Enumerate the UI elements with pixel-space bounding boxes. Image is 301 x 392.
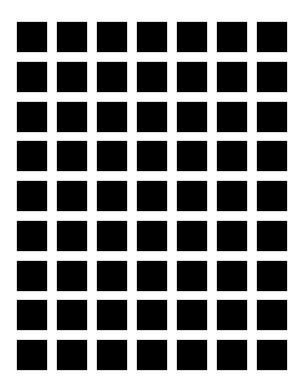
grid-square bbox=[217, 181, 247, 211]
grid-square bbox=[57, 261, 87, 291]
figure-canvas bbox=[0, 0, 301, 392]
grid-square bbox=[17, 261, 47, 291]
grid-square bbox=[137, 261, 167, 291]
grid-square bbox=[137, 340, 167, 370]
grid-square bbox=[217, 62, 247, 92]
grid-square bbox=[57, 141, 87, 171]
square-grid bbox=[17, 22, 287, 370]
grid-square bbox=[217, 261, 247, 291]
grid-square bbox=[97, 221, 127, 251]
grid-square bbox=[257, 300, 287, 330]
grid-square bbox=[17, 22, 47, 52]
grid-square bbox=[177, 261, 207, 291]
grid-square bbox=[97, 141, 127, 171]
grid-square bbox=[97, 181, 127, 211]
grid-square bbox=[137, 102, 167, 132]
grid-square bbox=[177, 102, 207, 132]
grid-square bbox=[137, 221, 167, 251]
grid-square bbox=[17, 102, 47, 132]
grid-square bbox=[217, 141, 247, 171]
grid-square bbox=[257, 62, 287, 92]
grid-square bbox=[137, 62, 167, 92]
grid-square bbox=[257, 340, 287, 370]
grid-square bbox=[257, 261, 287, 291]
grid-square bbox=[257, 181, 287, 211]
grid-square bbox=[177, 300, 207, 330]
grid-square bbox=[217, 22, 247, 52]
grid-square bbox=[57, 181, 87, 211]
grid-square bbox=[177, 221, 207, 251]
grid-square bbox=[17, 221, 47, 251]
grid-square bbox=[97, 300, 127, 330]
grid-square bbox=[217, 340, 247, 370]
grid-square bbox=[97, 62, 127, 92]
grid-square bbox=[57, 102, 87, 132]
grid-square bbox=[177, 141, 207, 171]
grid-square bbox=[97, 102, 127, 132]
grid-square bbox=[57, 22, 87, 52]
grid-square bbox=[97, 22, 127, 52]
grid-square bbox=[217, 102, 247, 132]
grid-square bbox=[257, 102, 287, 132]
grid-square bbox=[217, 300, 247, 330]
grid-square bbox=[17, 340, 47, 370]
grid-square bbox=[17, 300, 47, 330]
grid-square bbox=[137, 300, 167, 330]
grid-square bbox=[17, 62, 47, 92]
grid-square bbox=[177, 181, 207, 211]
grid-square bbox=[177, 22, 207, 52]
grid-square bbox=[257, 221, 287, 251]
grid-square bbox=[57, 221, 87, 251]
grid-square bbox=[177, 62, 207, 92]
grid-square bbox=[217, 221, 247, 251]
grid-square bbox=[57, 300, 87, 330]
grid-square bbox=[57, 340, 87, 370]
grid-square bbox=[17, 141, 47, 171]
grid-square bbox=[137, 181, 167, 211]
grid-square bbox=[257, 22, 287, 52]
grid-square bbox=[257, 141, 287, 171]
grid-square bbox=[97, 261, 127, 291]
grid-square bbox=[137, 141, 167, 171]
grid-square bbox=[137, 22, 167, 52]
grid-square bbox=[57, 62, 87, 92]
grid-square bbox=[177, 340, 207, 370]
grid-square bbox=[97, 340, 127, 370]
grid-square bbox=[17, 181, 47, 211]
